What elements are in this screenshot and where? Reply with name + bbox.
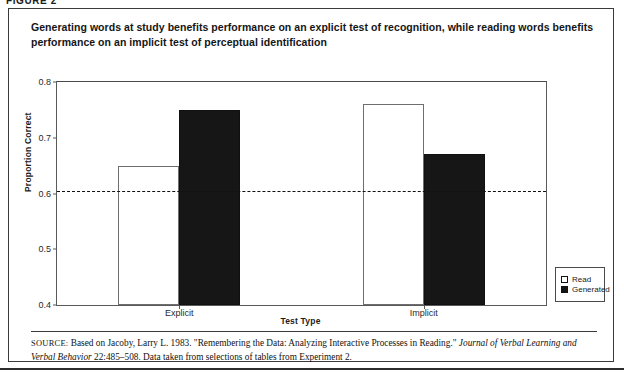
y-tick-label: 0.4 <box>38 300 51 310</box>
reference-line <box>57 191 546 192</box>
legend-swatch-open-square-icon <box>561 276 568 283</box>
y-tick-mark <box>53 82 57 83</box>
source-label: SOURCE: <box>31 339 68 348</box>
page-bottom-rule <box>0 368 624 370</box>
y-tick-mark <box>53 193 57 194</box>
bar-implicit-read <box>363 104 424 305</box>
chart-legend: Read Generated <box>555 267 605 302</box>
legend-item-read: Read <box>561 275 600 284</box>
bar-explicit-read <box>118 166 179 305</box>
legend-item-generated: Generated <box>561 285 600 294</box>
source-divider <box>31 331 597 332</box>
source-note: SOURCE: Based on Jacoby, Larry L. 1983. … <box>31 337 597 363</box>
legend-label-read: Read <box>572 275 591 284</box>
y-tick-label: 0.7 <box>38 133 51 143</box>
source-text-part2: 22:485–508. Data taken from selections o… <box>92 352 352 362</box>
y-tick-label: 0.8 <box>38 77 51 87</box>
legend-label-generated: Generated <box>572 285 610 294</box>
y-tick-mark <box>53 137 57 138</box>
y-tick-mark <box>53 249 57 250</box>
figure-tag-strip: FIGURE 2 <box>6 0 126 5</box>
bar-explicit-generated <box>179 110 240 305</box>
y-axis-label: Proportion Correct <box>23 112 33 192</box>
y-tick-label: 0.6 <box>38 189 51 199</box>
chart-area: Proportion Correct 0.40.50.60.70.8Explic… <box>9 9 615 363</box>
source-text-part1: Based on Jacoby, Larry L. 1983. "Remembe… <box>71 338 459 348</box>
bar-implicit-generated <box>424 154 485 305</box>
x-axis-label: Test Type <box>56 316 545 326</box>
y-tick-label: 0.5 <box>38 244 51 254</box>
figure-tag: FIGURE 2 <box>6 0 126 5</box>
y-tick-mark <box>53 305 57 306</box>
figure-container: Generating words at study benefits perfo… <box>8 8 614 362</box>
legend-swatch-filled-square-icon <box>561 286 568 293</box>
plot-frame: 0.40.50.60.70.8ExplicitImplicit <box>56 81 547 306</box>
